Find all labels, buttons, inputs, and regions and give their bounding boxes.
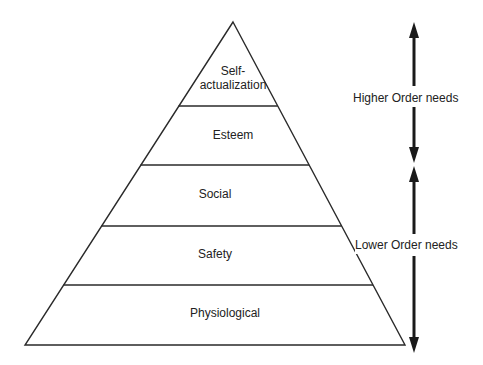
higher-order-label: Higher Order needs — [353, 89, 458, 107]
level-label-line1: Self- — [183, 64, 283, 78]
arrowhead-down-icon — [409, 337, 419, 353]
arrowhead-up-icon — [409, 22, 419, 38]
level-esteem: Esteem — [183, 128, 283, 142]
arrowhead-down-icon — [409, 147, 419, 163]
level-label-line2: actualization — [183, 78, 283, 92]
arrowhead-up-icon — [409, 166, 419, 182]
level-social: Social — [165, 187, 265, 201]
level-self-actualization: Self- actualization — [183, 64, 283, 92]
lower-order-label: Lower Order needs — [355, 236, 458, 254]
lower-order-arrow — [409, 166, 419, 353]
level-physiological: Physiological — [165, 306, 285, 320]
level-safety: Safety — [165, 247, 265, 261]
